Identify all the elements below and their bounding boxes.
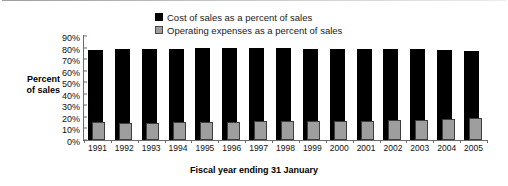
y-axis-tick-mark: [84, 128, 87, 129]
x-axis-tick-label: 2004: [433, 143, 460, 153]
y-axis-tick-mark: [84, 116, 87, 117]
y-axis-tick-mark: [84, 105, 87, 106]
x-axis-tick-label: 2000: [326, 143, 353, 153]
bar-operating-expenses: [200, 122, 213, 140]
y-axis-tick-mark: [84, 70, 87, 71]
legend-swatch-operating-expenses: [155, 26, 163, 34]
y-axis-title-line-1: Percent: [8, 74, 60, 85]
bar-operating-expenses: [173, 122, 186, 140]
top-border-artifact: [2, 0, 506, 1]
y-axis-tick-label: 80%: [62, 45, 80, 55]
x-axis-tick-label: 1995: [191, 143, 218, 153]
bar-operating-expenses: [361, 121, 374, 140]
y-axis-tick-mark: [84, 47, 87, 48]
x-axis-line: [83, 140, 488, 141]
bar-operating-expenses: [146, 123, 159, 140]
bar-operating-expenses: [281, 121, 294, 140]
y-axis-tick-label: 30%: [62, 102, 80, 112]
bar-operating-expenses: [388, 120, 401, 140]
y-axis-tick-label: 90%: [62, 33, 80, 43]
bar-operating-expenses: [227, 122, 240, 140]
bar-operating-expenses: [442, 119, 455, 140]
y-axis-tick-label: 10%: [62, 125, 80, 135]
x-axis-tick-label: 2003: [406, 143, 433, 153]
legend-swatch-cost-of-sales: [155, 13, 163, 21]
bar-operating-expenses: [469, 118, 482, 140]
chart-legend: Cost of sales as a percent of sales Oper…: [155, 11, 415, 37]
legend-label-operating-expenses: Operating expenses as a percent of sales: [167, 25, 342, 36]
legend-label-cost-of-sales: Cost of sales as a percent of sales: [167, 12, 312, 23]
x-axis-tick-label: 1997: [245, 143, 272, 153]
bar-operating-expenses: [415, 120, 428, 140]
y-axis-tick-mark: [84, 82, 87, 83]
x-axis-tick-label: 1996: [218, 143, 245, 153]
bar-operating-expenses: [92, 122, 105, 140]
chart-container: Cost of sales as a percent of sales Oper…: [0, 0, 508, 186]
y-axis-tick-label: 60%: [62, 68, 80, 78]
y-axis-tick-mark: [84, 59, 87, 60]
y-axis-tick-label: 20%: [62, 114, 80, 124]
x-axis-tick-label: 2005: [460, 143, 487, 153]
y-axis-tick-mark: [84, 36, 87, 37]
y-axis-tick-mark: [84, 93, 87, 94]
y-axis-tick-label: 40%: [62, 91, 80, 101]
legend-item-cost-of-sales: Cost of sales as a percent of sales: [155, 11, 415, 23]
x-axis-title: Fiscal year ending 31 January: [0, 165, 508, 175]
bar-operating-expenses: [334, 121, 347, 140]
x-axis-tick-label: 2002: [380, 143, 407, 153]
plot-area: 0%10%20%30%40%50%60%70%80%90%19911992199…: [84, 36, 487, 140]
y-axis-tick-label: 70%: [62, 56, 80, 66]
x-axis-tick-label: 1998: [272, 143, 299, 153]
x-axis-tick-label: 1991: [84, 143, 111, 153]
x-axis-tick-label: 1994: [165, 143, 192, 153]
y-axis-tick-label: 50%: [62, 79, 80, 89]
bar-operating-expenses: [119, 123, 132, 140]
y-axis-title: Percent of sales: [8, 74, 60, 96]
bar-operating-expenses: [254, 121, 267, 140]
legend-item-operating-expenses: Operating expenses as a percent of sales: [155, 24, 415, 36]
x-axis-tick-mark: [487, 140, 488, 143]
y-axis-tick-label: 0%: [67, 137, 80, 147]
x-axis-tick-label: 1993: [138, 143, 165, 153]
x-axis-tick-label: 1999: [299, 143, 326, 153]
y-axis-tick: 90%: [62, 27, 84, 45]
bar-operating-expenses: [307, 121, 320, 140]
x-axis-tick-label: 2001: [353, 143, 380, 153]
x-axis-tick-label: 1992: [111, 143, 138, 153]
y-axis-title-line-2: of sales: [8, 85, 60, 96]
